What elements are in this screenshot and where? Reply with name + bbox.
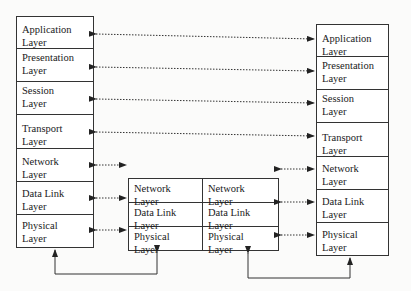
peer-link-application	[96, 34, 314, 39]
peer-link-presentation	[96, 67, 314, 71]
peer-link-transport	[96, 132, 314, 136]
connector-arrows	[0, 0, 411, 291]
peer-link-session	[96, 99, 314, 103]
physical-link-right	[248, 253, 350, 278]
physical-link-left	[55, 250, 157, 274]
osi-layer-diagram: ApplicationLayer PresentationLayer Sessi…	[0, 0, 411, 291]
